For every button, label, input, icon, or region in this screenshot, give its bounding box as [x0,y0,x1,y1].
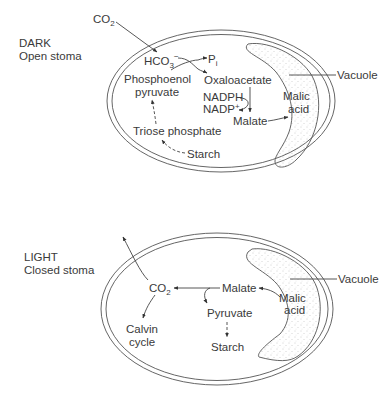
stoma-label: Closed stoma [24,264,95,276]
hco3: HCO3− [144,52,179,70]
light-panel: LIGHT Closed stoma Vacuole Malic acid CO… [24,233,379,385]
co2-to-calvin-arrow [143,295,155,318]
starch-to-triose-arrow [162,140,185,153]
vacuole-label: Vacuole [337,69,378,81]
stoma-label: Open stoma [19,50,82,62]
pep-label-2: pyruvate [135,86,179,98]
malate-to-pyruvate-arrow [205,288,210,303]
cam-metabolism-diagram: DARK Open stoma Vacuole Malic acid CO2 H… [0,0,392,400]
triose-phosphate: Triose phosphate [133,125,221,137]
malic-acid-label: Malic [279,292,306,304]
malate-to-vacuole-arrow [268,117,288,121]
co2-influx-arrow [116,22,157,52]
co2-internal: CO2 [149,282,171,297]
malic-acid-label-2: acid [288,103,309,115]
starch: Starch [187,148,220,160]
co2-external: CO2 [93,13,115,28]
dark-panel: DARK Open stoma Vacuole Malic acid CO2 H… [19,13,378,172]
starch: Starch [211,341,244,353]
vacuole-label: Vacuole [338,273,379,285]
malic-acid-label-2: acid [284,304,305,316]
condition-label: DARK [19,37,51,49]
pep-label-1: Phosphoenol [124,73,191,85]
pi: Pi [208,53,218,68]
pyruvate: Pyruvate [207,307,252,319]
nadp: NADP+ [203,102,240,115]
vacuole-to-malate-arrow [259,288,280,297]
calvin-label-2: cycle [129,336,155,348]
malic-acid-label: Malic [283,90,310,102]
malate: Malate [222,282,257,294]
condition-label: LIGHT [24,251,58,263]
calvin-label-1: Calvin [126,323,158,335]
malate: Malate [233,115,268,127]
co2-efflux-arrow [123,237,148,280]
oxaloacetate: Oxaloacetate [204,74,272,86]
triose-to-pep-arrow [152,100,156,124]
